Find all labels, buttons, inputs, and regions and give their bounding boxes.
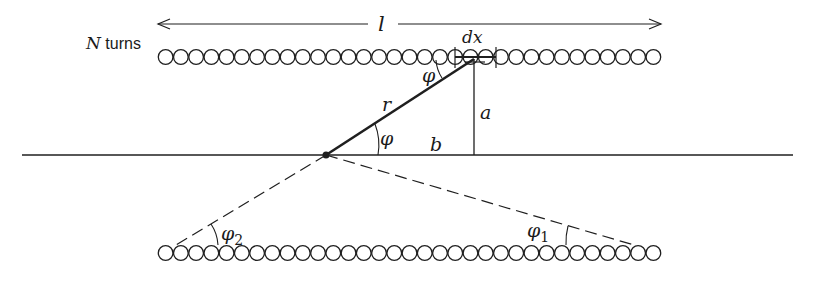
n-turns-symbol: N bbox=[85, 33, 102, 53]
solenoid-turn bbox=[204, 50, 219, 65]
solenoid-turn bbox=[158, 50, 173, 65]
n-turns-label: N turns bbox=[85, 33, 141, 53]
solenoid-turn bbox=[585, 50, 600, 65]
angle-arc-right bbox=[566, 226, 568, 245]
solenoid-turn bbox=[174, 50, 189, 65]
solenoid-turn bbox=[326, 50, 341, 65]
solenoid-turn bbox=[463, 246, 478, 261]
phi-top-label: φ bbox=[422, 64, 436, 86]
solenoid-turn bbox=[235, 50, 250, 65]
solenoid-turn bbox=[600, 246, 615, 261]
solenoid-turn bbox=[250, 50, 265, 65]
solenoid-turn bbox=[616, 246, 631, 261]
solenoid-turn bbox=[555, 50, 570, 65]
solenoid-turn bbox=[372, 50, 387, 65]
b-label: b bbox=[430, 133, 442, 155]
solenoid-turn bbox=[539, 246, 554, 261]
solenoid-turn bbox=[417, 246, 432, 261]
solenoid-turn bbox=[448, 246, 463, 261]
dx-label: dx bbox=[462, 27, 483, 47]
field-point bbox=[323, 152, 330, 159]
solenoid-turn bbox=[570, 50, 585, 65]
solenoid-top-row bbox=[158, 50, 660, 65]
solenoid-turn bbox=[387, 246, 402, 261]
solenoid-turn bbox=[646, 50, 661, 65]
solenoid-turn bbox=[219, 246, 234, 261]
phi-1-label: φ1 bbox=[527, 219, 549, 245]
solenoid-turn bbox=[616, 50, 631, 65]
solenoid-turn bbox=[478, 246, 493, 261]
dashed-line-to-left-end bbox=[176, 155, 326, 245]
solenoid-turn bbox=[250, 246, 265, 261]
length-label: l bbox=[378, 12, 385, 36]
solenoid-turn bbox=[219, 50, 234, 65]
solenoid-turn bbox=[646, 246, 661, 261]
solenoid-turn bbox=[539, 50, 554, 65]
solenoid-turn bbox=[402, 50, 417, 65]
solenoid-turn bbox=[509, 50, 524, 65]
radius-vector-r bbox=[326, 59, 474, 155]
solenoid-turn bbox=[295, 50, 310, 65]
solenoid-turn bbox=[341, 50, 356, 65]
solenoid-turn bbox=[326, 246, 341, 261]
solenoid-turn bbox=[280, 246, 295, 261]
solenoid-turn bbox=[402, 246, 417, 261]
solenoid-turn bbox=[585, 246, 600, 261]
solenoid-turn bbox=[524, 246, 539, 261]
solenoid-turn bbox=[600, 50, 615, 65]
solenoid-turn bbox=[631, 246, 646, 261]
solenoid-turn bbox=[433, 50, 448, 65]
solenoid-turn bbox=[356, 246, 371, 261]
solenoid-turn bbox=[494, 246, 509, 261]
phi-1-symbol: φ bbox=[527, 219, 541, 241]
solenoid-turn bbox=[570, 246, 585, 261]
a-label: a bbox=[480, 101, 491, 123]
solenoid-turn bbox=[158, 246, 173, 261]
phi-2-subscript: 2 bbox=[234, 232, 243, 248]
phi-2-symbol: φ bbox=[221, 222, 235, 244]
solenoid-turn bbox=[204, 246, 219, 261]
solenoid-turn bbox=[356, 50, 371, 65]
length-arrow bbox=[158, 19, 661, 29]
solenoid-turn bbox=[631, 50, 646, 65]
solenoid-turn bbox=[265, 246, 280, 261]
dashed-line-to-right-end bbox=[326, 155, 634, 245]
solenoid-field-diagram: l N turns dx r a b φ φ φ2 φ1 bbox=[0, 0, 816, 282]
solenoid-turn bbox=[341, 246, 356, 261]
phi-1-subscript: 1 bbox=[540, 229, 549, 245]
solenoid-turn bbox=[174, 246, 189, 261]
solenoid-turn bbox=[433, 246, 448, 261]
solenoid-turn bbox=[524, 50, 539, 65]
angle-arc-left bbox=[211, 224, 218, 245]
solenoid-turn bbox=[311, 246, 326, 261]
solenoid-turn bbox=[311, 50, 326, 65]
solenoid-turn bbox=[372, 246, 387, 261]
n-turns-text: turns bbox=[101, 35, 141, 52]
solenoid-turn bbox=[509, 246, 524, 261]
dx-element-marker bbox=[455, 47, 496, 68]
solenoid-turn bbox=[265, 50, 280, 65]
solenoid-turn bbox=[417, 50, 432, 65]
solenoid-turn bbox=[280, 50, 295, 65]
angle-arc-center bbox=[375, 124, 379, 155]
solenoid-turn bbox=[189, 50, 204, 65]
solenoid-turn bbox=[555, 246, 570, 261]
solenoid-turn bbox=[295, 246, 310, 261]
phi-2-label: φ2 bbox=[221, 222, 243, 248]
angle-arc-top bbox=[436, 60, 442, 78]
solenoid-turn bbox=[189, 246, 204, 261]
phi-center-label: φ bbox=[380, 127, 394, 149]
solenoid-turn bbox=[387, 50, 402, 65]
